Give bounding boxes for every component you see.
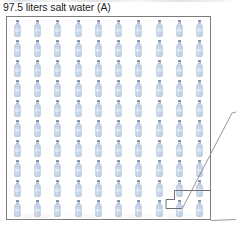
- bottle-cell: [68, 138, 88, 158]
- water-bottle-icon: [13, 100, 22, 117]
- bottle-cell: [149, 178, 169, 198]
- bottle-cell: [88, 138, 108, 158]
- pictograph-figure: 97.5 liters salt water (A): [0, 0, 236, 229]
- bottle-cell: [149, 118, 169, 138]
- water-bottle-icon: [195, 100, 204, 117]
- water-bottle-icon: [33, 40, 42, 57]
- bottle-cell: [68, 58, 88, 78]
- water-bottle-icon: [53, 80, 62, 97]
- water-bottle-icon: [13, 120, 22, 137]
- water-bottle-icon: [53, 60, 62, 77]
- water-bottle-icon: [155, 80, 164, 97]
- water-bottle-icon: [53, 120, 62, 137]
- bottle-cell: [68, 98, 88, 118]
- bottle-cell: [88, 58, 108, 78]
- water-bottle-icon: [33, 160, 42, 177]
- water-bottle-icon: [33, 20, 42, 37]
- water-bottle-icon: [134, 40, 143, 57]
- bottle-cell: [169, 178, 189, 198]
- bottle-cell: [68, 18, 88, 38]
- bottle-cell: [7, 138, 27, 158]
- bottle-cell: [190, 138, 210, 158]
- bottle-cell: [129, 118, 149, 138]
- water-bottle-icon: [114, 60, 123, 77]
- water-bottle-icon: [175, 20, 184, 37]
- bottle-cell: [108, 118, 128, 138]
- water-bottle-icon: [94, 140, 103, 157]
- water-bottle-icon: [175, 100, 184, 117]
- water-bottle-icon: [175, 60, 184, 77]
- water-bottle-icon: [13, 40, 22, 57]
- water-bottle-icon: [94, 160, 103, 177]
- bottle-cell: [27, 158, 47, 178]
- bottle-cell: [169, 58, 189, 78]
- bottle-cell: [27, 178, 47, 198]
- bottle-cell: [27, 18, 47, 38]
- bottle-cell: [48, 18, 68, 38]
- water-bottle-icon: [74, 20, 83, 37]
- bottle-cell: [169, 78, 189, 98]
- bottle-cell: [48, 178, 68, 198]
- water-bottle-icon: [74, 160, 83, 177]
- bottle-cell: [7, 38, 27, 58]
- water-bottle-icon: [53, 20, 62, 37]
- water-bottle-icon: [175, 180, 184, 197]
- water-bottle-icon: [33, 120, 42, 137]
- water-bottle-icon: [33, 100, 42, 117]
- bottle-cell: [48, 98, 68, 118]
- bottle-grid: [7, 17, 210, 219]
- water-bottle-icon: [74, 120, 83, 137]
- water-bottle-icon: [134, 160, 143, 177]
- bottle-cell: [108, 58, 128, 78]
- bottle-cell: [149, 138, 169, 158]
- bottle-cell: [190, 118, 210, 138]
- bottle-cell: [7, 158, 27, 178]
- water-bottle-icon: [155, 20, 164, 37]
- bottle-cell: [88, 158, 108, 178]
- water-bottle-icon: [195, 60, 204, 77]
- bottle-cell: [27, 138, 47, 158]
- bottle-cell: [108, 78, 128, 98]
- bottle-cell: [48, 118, 68, 138]
- water-bottle-icon: [195, 80, 204, 97]
- bottle-cell: [48, 58, 68, 78]
- bottle-cell: [68, 158, 88, 178]
- water-bottle-icon: [74, 140, 83, 157]
- bottle-cell: [108, 138, 128, 158]
- water-bottle-icon: [175, 80, 184, 97]
- water-bottle-icon: [134, 20, 143, 37]
- bottle-cell: [129, 38, 149, 58]
- water-bottle-icon: [114, 20, 123, 37]
- bottle-cell: [108, 18, 128, 38]
- bottle-cell: [190, 98, 210, 118]
- water-bottle-icon: [33, 80, 42, 97]
- bottle-cell: [149, 58, 169, 78]
- water-bottle-icon: [94, 80, 103, 97]
- water-bottle-icon: [195, 40, 204, 57]
- water-bottle-icon: [13, 160, 22, 177]
- bottle-cell: [129, 178, 149, 198]
- bottle-cell: [190, 58, 210, 78]
- water-bottle-icon: [134, 100, 143, 117]
- water-bottle-icon: [94, 100, 103, 117]
- bottle-cell: [68, 178, 88, 198]
- water-bottle-icon: [114, 100, 123, 117]
- water-bottle-icon: [13, 80, 22, 97]
- bottle-cell: [190, 178, 210, 198]
- water-bottle-icon: [13, 180, 22, 197]
- bottle-cell: [68, 118, 88, 138]
- bottle-cell: [88, 98, 108, 118]
- figure-caption: 97.5 liters salt water (A): [3, 1, 111, 14]
- bottle-cell: [48, 38, 68, 58]
- water-bottle-icon: [114, 80, 123, 97]
- bottle-cell: [169, 158, 189, 178]
- water-bottle-icon: [53, 100, 62, 117]
- water-bottle-icon: [195, 20, 204, 37]
- bottle-cell: [169, 118, 189, 138]
- bottle-cell: [149, 98, 169, 118]
- bottle-cell: [7, 18, 27, 38]
- water-bottle-icon: [13, 140, 22, 157]
- water-bottle-icon: [114, 160, 123, 177]
- bottle-cell: [190, 78, 210, 98]
- water-bottle-icon: [94, 180, 103, 197]
